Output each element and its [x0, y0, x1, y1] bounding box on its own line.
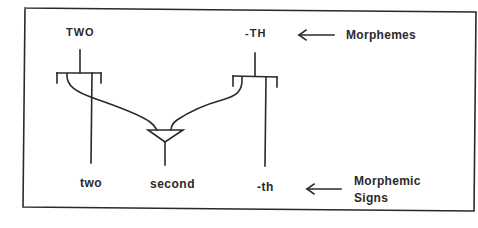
morpheme-two-label: TWO — [66, 26, 95, 38]
morphemic-annotation-line2: Signs — [354, 189, 388, 207]
two-to-second-curve — [67, 74, 157, 130]
sign-th-label: -th — [257, 180, 274, 194]
merge-triangle — [148, 130, 183, 142]
sign-second-label: second — [150, 177, 195, 191]
sign-two-label: two — [80, 176, 102, 190]
th-direct-line — [265, 77, 266, 166]
morphemes-annotation: Morphemes — [346, 26, 416, 44]
th-to-second-curve — [171, 77, 242, 130]
diagram-canvas: TWO -TH two second -th Morphemes Morphem… — [0, 0, 478, 228]
two-direct-line — [91, 73, 92, 163]
morpheme-th-label: -TH — [245, 27, 266, 39]
th-bracket-bar — [233, 76, 277, 77]
morphemic-annotation-line1: Morphemic — [354, 172, 421, 190]
